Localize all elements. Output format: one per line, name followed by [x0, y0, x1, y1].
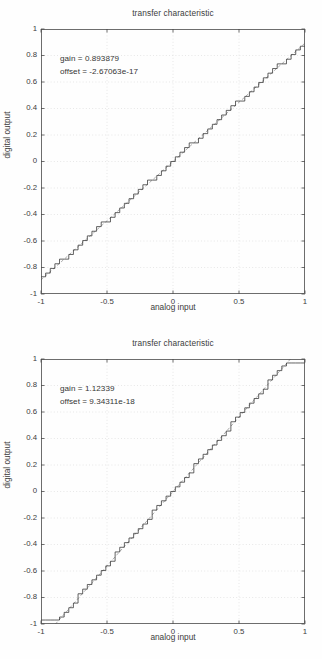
x-tick-label: 1: [285, 627, 322, 636]
y-tick-label: 0.2: [3, 130, 37, 139]
y-tick-label: -0.8: [3, 262, 37, 271]
y-tick-label: 0.6: [3, 77, 37, 86]
y-tick-label: 1: [3, 24, 37, 33]
x-tick-label: 0: [153, 627, 193, 636]
y-tick-label: -0.2: [3, 183, 37, 192]
y-tick-label: -0.6: [3, 566, 37, 575]
y-tick-label: 0.6: [3, 407, 37, 416]
y-tick-label: 0.4: [3, 103, 37, 112]
x-tick-label: -1: [21, 297, 61, 306]
chart-canvas: [0, 330, 322, 659]
figure-page: transfer characteristic digital output a…: [0, 0, 322, 659]
x-tick-label: -1: [21, 627, 61, 636]
y-tick-label: -0.4: [3, 209, 37, 218]
y-tick-label: -0.6: [3, 236, 37, 245]
x-tick-label: 0: [153, 297, 193, 306]
y-tick-label: 0.8: [3, 50, 37, 59]
transfer-characteristic-figure-2: transfer characteristic digital output a…: [0, 330, 322, 659]
transfer-characteristic-figure-1: transfer characteristic digital output a…: [0, 0, 322, 329]
x-tick-label: 1: [285, 297, 322, 306]
y-tick-label: 1: [3, 354, 37, 363]
y-tick-label: 0: [3, 486, 37, 495]
x-tick-label: -0.5: [87, 297, 127, 306]
y-tick-label: -0.2: [3, 513, 37, 522]
y-tick-label: 0.4: [3, 433, 37, 442]
chart-canvas: [0, 0, 322, 329]
y-tick-label: 0: [3, 156, 37, 165]
x-tick-label: 0.5: [219, 627, 259, 636]
y-tick-label: -0.4: [3, 539, 37, 548]
y-tick-label: 0.2: [3, 460, 37, 469]
x-tick-label: -0.5: [87, 627, 127, 636]
y-tick-label: 0.8: [3, 380, 37, 389]
y-tick-label: -0.8: [3, 592, 37, 601]
x-tick-label: 0.5: [219, 297, 259, 306]
